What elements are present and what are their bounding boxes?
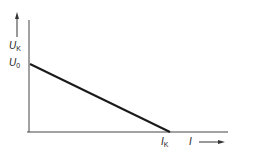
ik-label: IK xyxy=(161,137,168,148)
y-axis-label: UK xyxy=(9,41,21,52)
y-arrow-icon xyxy=(15,12,19,37)
u0-label: U0 xyxy=(9,58,20,69)
x-axis-label: I xyxy=(189,137,192,147)
characteristic-line xyxy=(30,64,170,132)
diagram-canvas xyxy=(0,0,254,154)
x-arrow-icon xyxy=(199,140,225,144)
